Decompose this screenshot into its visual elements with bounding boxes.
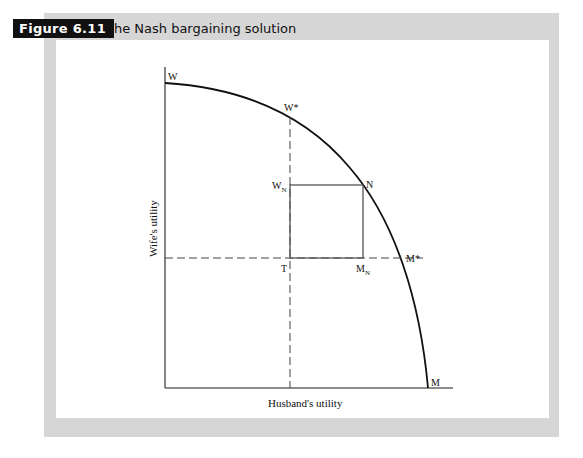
nash-bargaining-diagram: W W* WN N M* T MN M Husband's utility Wi… <box>0 0 583 458</box>
x-axis-title: Husband's utility <box>268 397 343 409</box>
y-axis-title: Wife's utility <box>147 200 159 257</box>
label-T: T <box>281 263 287 274</box>
label-M-star: M* <box>406 253 420 264</box>
label-W-star: W* <box>284 102 298 113</box>
label-M-N: MN <box>356 263 370 277</box>
nash-rectangle <box>290 185 363 258</box>
label-W-N: WN <box>272 180 287 194</box>
label-W: W <box>168 71 178 82</box>
label-M: M <box>431 377 440 388</box>
label-N: N <box>366 179 373 190</box>
utility-frontier-curve <box>165 83 428 388</box>
